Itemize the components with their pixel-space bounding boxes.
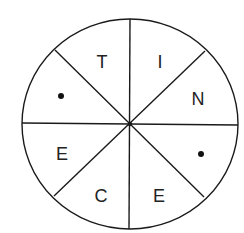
letter-wheel-diagram: T I N E C E (0, 0, 244, 233)
sector-dot-left-upper (58, 93, 64, 99)
sector-dot-right-lower (198, 151, 204, 157)
sector-label-top-left: T (97, 52, 108, 72)
sector-label-bottom-right: E (153, 186, 165, 206)
center-point (128, 122, 132, 126)
sector-label-right-upper: N (192, 89, 205, 109)
sector-label-top-right: I (157, 52, 162, 72)
sector-label-left-lower: E (56, 144, 68, 164)
sector-label-bottom-left: C (95, 186, 108, 206)
